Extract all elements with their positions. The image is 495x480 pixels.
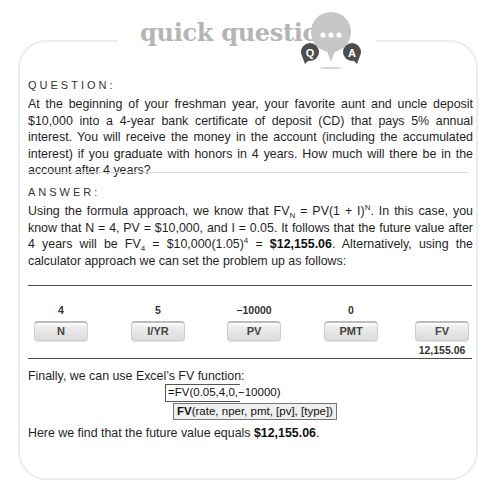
calc-key-pv[interactable]: PV (227, 321, 281, 341)
conclusion-text: Here we find that the future value equal… (28, 426, 254, 440)
answer-text: = $10,000(1.05) (145, 237, 244, 251)
calculator-bottom-rule (28, 358, 472, 359)
svg-text:Q: Q (306, 47, 315, 59)
conclusion-period: . (316, 426, 319, 440)
excel-intro: Finally, we can use Excel’s FV function: (28, 368, 473, 385)
answer-label: ANSWER: (28, 186, 100, 198)
calc-input-iyr: 5 I/YR (128, 303, 188, 341)
calc-input-fv: FV 12,155.06 (412, 303, 472, 356)
calc-input-pmt: 0 PMT (321, 303, 381, 341)
calc-value: 0 (321, 303, 381, 317)
conclusion-result: $12,155.06 (254, 426, 316, 440)
calculator-setup: 4 N 5 I/YR −10000 PV 0 PMT FV 12,155.06 (28, 303, 472, 363)
excel-formula: =FV(0.05,4,0,−10000) (168, 385, 281, 400)
question-text: At the beginning of your freshman year, … (28, 96, 473, 179)
answer-text: = (248, 237, 270, 251)
calc-value: −10000 (224, 303, 284, 317)
svg-text:A: A (348, 47, 356, 59)
section-divider (28, 172, 468, 173)
tooltip-arguments: (rate, nper, pmt, [pv], [type]) (192, 405, 333, 417)
question-label: QUESTION: (28, 79, 116, 91)
answer-paragraph: Using the formula approach, we know that… (28, 203, 473, 269)
calc-key-n[interactable]: N (34, 321, 88, 341)
calc-value: 5 (128, 303, 188, 317)
calculator-top-rule (28, 285, 472, 286)
excel-function-tooltip: FV(rate, nper, pmt, [pv], [type]) (173, 403, 337, 420)
tooltip-function-name: FV (177, 405, 192, 417)
calc-key-pmt[interactable]: PMT (324, 321, 378, 341)
calc-key-iyr[interactable]: I/YR (131, 321, 185, 341)
calc-input-pv: −10000 PV (224, 303, 284, 341)
answer-text: Using the formula approach, we know that… (28, 204, 289, 218)
conclusion: Here we find that the future value equal… (28, 425, 473, 442)
qa-speech-bubbles-icon: Q A (290, 8, 370, 78)
calc-value: 4 (31, 303, 91, 317)
answer-text: = PV(1 + I) (295, 204, 364, 218)
calc-value (412, 303, 472, 317)
calc-key-fv[interactable]: FV (415, 321, 469, 341)
calc-result: 12,155.06 (412, 344, 472, 356)
calc-input-n: 4 N (31, 303, 91, 341)
result-bold: $12,155.06 (270, 237, 332, 251)
